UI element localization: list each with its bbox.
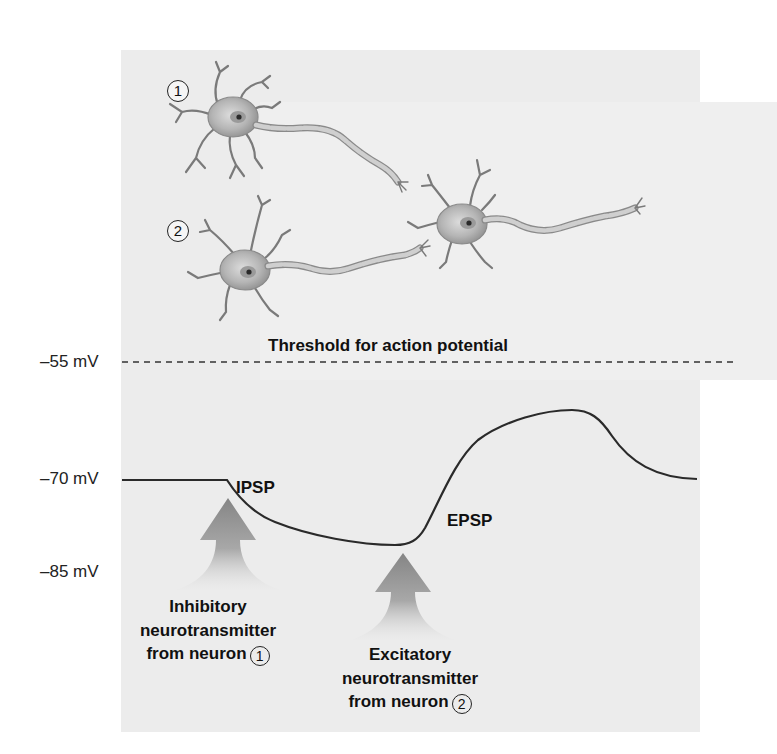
neuron-1 (170, 62, 408, 192)
neuron-postsynaptic (408, 160, 645, 268)
axis-label-minus-55: –55 mV (40, 352, 99, 372)
threshold-title: Threshold for action potential (268, 336, 508, 356)
excitatory-caption-line1: Excitatory (342, 643, 478, 667)
neuron-2-inline-badge: 2 (452, 694, 472, 714)
membrane-potential-curve (122, 410, 697, 545)
neuron-1-badge: 1 (167, 80, 189, 102)
inhibitory-arrow-icon (176, 498, 280, 590)
inhibitory-caption: Inhibitory neurotransmitter from neuron1 (140, 595, 276, 666)
ipsp-label: IPSP (236, 478, 275, 498)
inhibitory-caption-line1: Inhibitory (140, 595, 276, 619)
excitatory-caption-line3: from neuron2 (342, 690, 478, 714)
excitatory-arrow-icon (351, 553, 455, 640)
neuron-1-inline-badge: 1 (250, 646, 270, 666)
axis-label-minus-85: –85 mV (40, 562, 99, 582)
inhibitory-caption-line3: from neuron1 (140, 642, 276, 666)
excitatory-caption-line2: neurotransmitter (342, 667, 478, 691)
inhibitory-caption-from: from neuron (146, 644, 246, 663)
axis-label-minus-70: –70 mV (40, 469, 99, 489)
excitatory-caption: Excitatory neurotransmitter from neuron2 (342, 643, 478, 714)
inhibitory-caption-line2: neurotransmitter (140, 619, 276, 643)
neuron-2-badge: 2 (167, 220, 189, 242)
epsp-label: EPSP (447, 511, 492, 531)
neuron-2 (188, 196, 430, 320)
excitatory-caption-from: from neuron (348, 692, 448, 711)
